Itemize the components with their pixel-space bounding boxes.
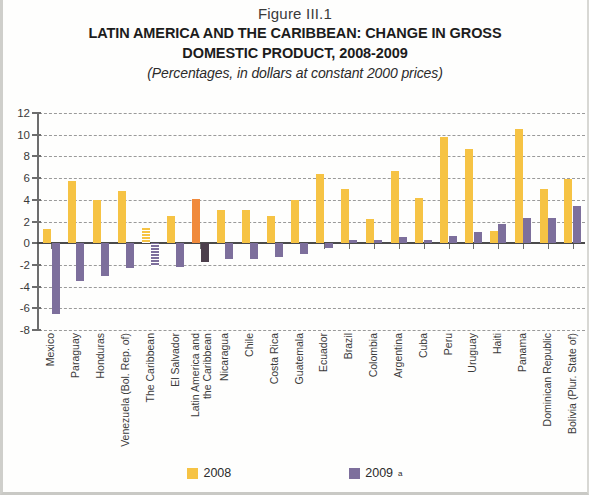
y-axis-tick-label: -2 — [20, 259, 30, 271]
bar-group — [113, 113, 138, 330]
x-axis-label: Chile — [244, 333, 256, 357]
legend-footnote-marker: a — [398, 469, 402, 478]
y-axis-tick-label: 12 — [17, 107, 30, 119]
bar — [573, 206, 581, 243]
figure-title-line2: DOMESTIC PRODUCT, 2008-2009 — [3, 44, 587, 64]
chart-legend: 2008 2009a — [3, 466, 587, 480]
y-axis-tick-label: 10 — [17, 129, 30, 141]
x-axis-label: Dominican Republic — [542, 333, 554, 426]
gridline — [39, 330, 585, 331]
bar-group — [39, 113, 64, 330]
x-axis-label: Argentina — [393, 333, 405, 378]
x-axis-label: Paraguay — [70, 333, 82, 378]
x-axis-label: Cuba — [418, 333, 430, 358]
legend-swatch-2008-icon — [187, 468, 198, 479]
x-axis-labels: MexicoParaguayHondurasVenezuela (Bol. Re… — [39, 333, 587, 453]
bar — [267, 216, 275, 243]
bar — [399, 237, 407, 244]
bar — [291, 200, 299, 243]
figure-title-line1: LATIN AMERICA AND THE CARIBBEAN: CHANGE … — [3, 24, 587, 44]
bar-group — [486, 113, 511, 330]
bar — [449, 236, 457, 244]
bar — [374, 240, 382, 243]
bar — [523, 218, 531, 243]
x-axis-label: Uruguay — [467, 333, 479, 373]
legend-label-2009: 2009 — [365, 466, 393, 480]
bar-group — [411, 113, 436, 330]
chart-plot-area: 121086420-2-4-6-8 — [37, 113, 585, 330]
y-axis-tick-label: -4 — [20, 281, 30, 293]
y-axis-tick-label: -6 — [20, 302, 30, 314]
bar — [316, 174, 324, 243]
bar-group — [511, 113, 536, 330]
bars-layer — [39, 113, 585, 330]
x-axis-label: El Salvador — [170, 333, 182, 387]
figure-number: Figure III.1 — [3, 4, 587, 24]
bar-group — [163, 113, 188, 330]
bar — [201, 243, 209, 261]
x-axis-label: Brazil — [343, 333, 355, 359]
bar-group — [461, 113, 486, 330]
bar — [118, 191, 126, 243]
x-axis-label: Colombia — [368, 333, 380, 377]
x-axis-label: Honduras — [95, 333, 107, 379]
bar — [540, 189, 548, 243]
bar — [465, 149, 473, 243]
bar — [564, 179, 572, 243]
bar — [217, 210, 225, 244]
figure-subtitle: (Percentages, in dollars at constant 200… — [3, 63, 587, 84]
x-axis-label: Mexico — [45, 333, 57, 366]
x-axis-label: Costa Rica — [269, 333, 281, 384]
bar — [142, 228, 150, 243]
bar — [341, 189, 349, 243]
bar — [366, 219, 374, 243]
bar-group — [213, 113, 238, 330]
bar-group — [89, 113, 114, 330]
legend-swatch-2009-icon — [349, 468, 360, 479]
bar-group — [312, 113, 337, 330]
y-axis-tick-label: 8 — [24, 150, 30, 162]
bar-group — [560, 113, 585, 330]
bar — [242, 210, 250, 244]
bar — [43, 229, 51, 243]
y-axis-tick-label: 0 — [24, 237, 30, 249]
x-axis-label: Haiti — [492, 333, 504, 354]
y-axis-tick-label: 4 — [24, 194, 30, 206]
x-axis-label: Latin America andthe Caribbean — [189, 333, 213, 417]
bar — [391, 171, 399, 244]
x-axis-label: Venezuela (Bol. Rep. of) — [120, 333, 132, 447]
bar — [151, 243, 159, 266]
bar — [176, 243, 184, 267]
bar-group — [188, 113, 213, 330]
x-axis-label: Peru — [443, 333, 455, 355]
y-axis-tick-label: 6 — [24, 172, 30, 184]
bar — [325, 243, 333, 247]
x-axis-label: The Caribbean — [145, 333, 157, 402]
bar — [415, 198, 423, 244]
figure-titles: Figure III.1 LATIN AMERICA AND THE CARIB… — [3, 4, 587, 84]
bar — [250, 243, 258, 259]
bar-group — [386, 113, 411, 330]
bar — [275, 243, 283, 257]
x-axis-label: Ecuador — [318, 333, 330, 372]
x-axis-label: Nicaragua — [219, 333, 231, 381]
bar — [490, 231, 498, 243]
bar-group — [238, 113, 263, 330]
x-axis-label: Bolivia (Plur. State of) — [567, 333, 579, 434]
bar — [52, 243, 60, 314]
x-axis-label: Panama — [517, 333, 529, 372]
bar — [192, 199, 200, 243]
bar — [440, 137, 448, 243]
bar — [76, 243, 84, 281]
bar — [93, 200, 101, 243]
bar-group — [337, 113, 362, 330]
bar — [498, 224, 506, 244]
bar-group — [138, 113, 163, 330]
bar — [474, 232, 482, 243]
bar — [424, 240, 432, 243]
legend-label-2008: 2008 — [203, 466, 231, 480]
bar — [167, 216, 175, 243]
y-axis-tick-label: 2 — [24, 216, 30, 228]
bar-group — [287, 113, 312, 330]
bar — [68, 181, 76, 243]
